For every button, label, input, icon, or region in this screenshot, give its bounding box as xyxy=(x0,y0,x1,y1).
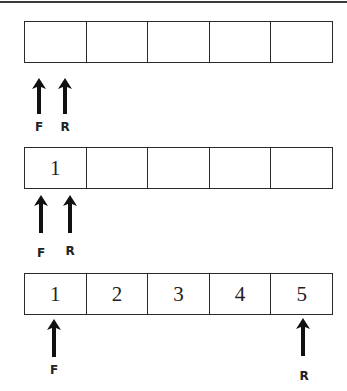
top-divider xyxy=(0,1,347,3)
queue-cell xyxy=(210,148,272,188)
rear-arrow-icon xyxy=(62,194,78,234)
front-arrow-icon xyxy=(31,77,47,115)
rear-label: R xyxy=(299,369,308,383)
front-arrow-icon xyxy=(33,194,49,234)
queue-array-one-element: 1 xyxy=(24,147,333,189)
rear-label: R xyxy=(65,244,74,258)
queue-array-empty xyxy=(24,21,333,63)
queue-cell: 1 xyxy=(25,274,87,314)
queue-cell xyxy=(271,148,332,188)
front-arrow-icon xyxy=(46,318,62,358)
queue-cell xyxy=(210,22,272,62)
queue-cell: 5 xyxy=(271,274,332,314)
queue-cell xyxy=(148,148,210,188)
queue-array-full: 1 2 3 4 5 xyxy=(24,273,333,315)
queue-cell: 4 xyxy=(210,274,272,314)
queue-cell: 2 xyxy=(87,274,149,314)
rear-arrow-icon xyxy=(57,77,73,115)
queue-cell xyxy=(87,22,149,62)
rear-arrow-icon xyxy=(295,317,311,357)
queue-cell xyxy=(87,148,149,188)
front-label: F xyxy=(37,246,45,260)
queue-cell: 1 xyxy=(25,148,87,188)
queue-cell xyxy=(25,22,87,62)
queue-cell xyxy=(148,22,210,62)
queue-cell: 3 xyxy=(148,274,210,314)
front-label: F xyxy=(35,120,43,134)
queue-cell xyxy=(271,22,332,62)
rear-label: R xyxy=(60,120,69,134)
front-label: F xyxy=(50,363,58,377)
